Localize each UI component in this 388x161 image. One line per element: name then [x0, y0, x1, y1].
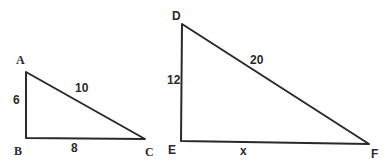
- triangle-def-outline: [181, 24, 369, 144]
- vertex-label-b: B: [14, 144, 22, 158]
- side-label-bc: 8: [71, 141, 78, 155]
- triangle-abc: A B C 6 8 10: [13, 53, 154, 159]
- side-label-ab: 6: [13, 93, 20, 107]
- vertex-label-c: C: [145, 145, 154, 159]
- triangle-def: D E F 12 x 20: [167, 9, 378, 161]
- similar-triangles-diagram: A B C 6 8 10 D E F 12 x 20: [0, 0, 388, 161]
- vertex-label-d: D: [172, 9, 181, 23]
- side-label-ac: 10: [75, 81, 89, 95]
- vertex-label-f: F: [371, 147, 378, 161]
- side-label-ef: x: [240, 144, 247, 158]
- side-label-de: 12: [167, 73, 181, 87]
- vertex-label-a: A: [16, 53, 25, 67]
- vertex-label-e: E: [168, 143, 176, 157]
- side-label-df: 20: [250, 53, 264, 67]
